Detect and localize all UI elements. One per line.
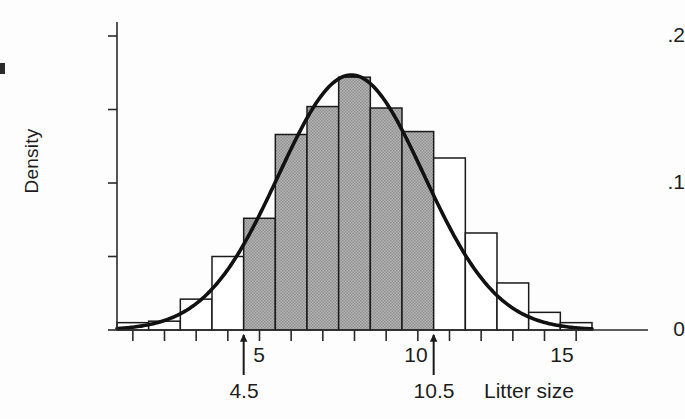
histogram-bar	[275, 134, 307, 330]
histogram-bars	[117, 77, 592, 330]
histogram-bar	[370, 108, 402, 330]
histogram-figure: Density 0 .1 .2 5 10 15 4.5 10.5 Litter …	[0, 0, 685, 419]
bound-arrows	[244, 335, 434, 375]
histogram-bar	[465, 233, 497, 330]
histogram-bar	[307, 107, 339, 330]
histogram-bar	[339, 77, 371, 330]
plot-canvas	[0, 0, 685, 419]
